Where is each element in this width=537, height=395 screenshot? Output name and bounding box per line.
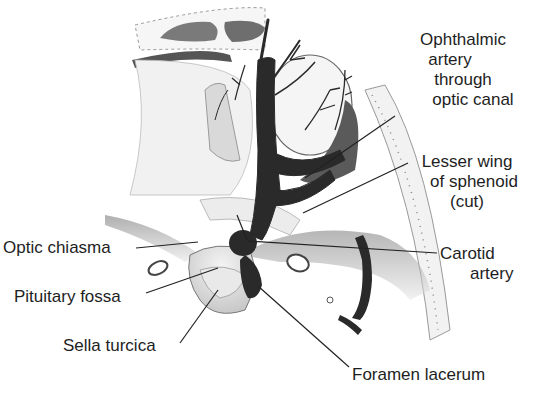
label-line: optic canal	[418, 90, 528, 110]
label-foramen-lacerum: Foramen lacerum	[352, 365, 485, 385]
label-line: artery	[470, 264, 513, 284]
foramen-left	[146, 258, 169, 277]
label-lesser-wing: Lesser wing of sphenoid (cut)	[412, 152, 522, 212]
label-optic-chiasma: Optic chiasma	[3, 238, 111, 258]
label-pituitary-fossa: Pituitary fossa	[14, 287, 121, 307]
anatomy-diagram: Ophthalmic artery through optic canal Le…	[0, 0, 537, 395]
label-carotid-artery: Carotid artery	[440, 244, 513, 284]
middle-cranial-fossa-right	[240, 231, 430, 301]
leader-foramen-lacerum	[258, 286, 349, 367]
label-line: of sphenoid	[426, 172, 522, 192]
label-line: Lesser wing	[412, 152, 522, 172]
middle-cranial-fossa-left	[105, 215, 200, 262]
lateral-skull-wall	[365, 85, 450, 340]
label-line: Ophthalmic	[398, 30, 528, 50]
label-line: (cut)	[412, 192, 522, 212]
label-line: through	[398, 70, 528, 90]
label-sella-turcica: Sella turcica	[63, 336, 156, 356]
label-line: artery	[372, 50, 528, 70]
frontal-bone	[132, 8, 265, 68]
label-ophthalmic-artery: Ophthalmic artery through optic canal	[398, 30, 528, 110]
label-line: Carotid	[440, 244, 513, 264]
